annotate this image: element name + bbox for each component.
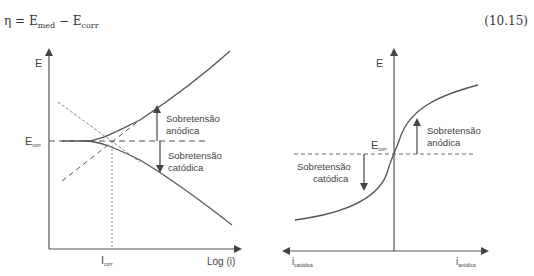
anodic-polarization-curve (62, 51, 230, 141)
right-cathodic-label-1: Sobretensão (297, 161, 351, 172)
left-cathodic-label-2: catódica (168, 162, 204, 173)
right-e-axis-label: E (376, 57, 383, 69)
polarization-diagrams: E Ecorr Icorr Log (i) Sobretensão anódic… (0, 0, 534, 276)
left-cathodic-label-1: Sobretensão (168, 150, 222, 161)
right-cathodic-label-2: catódica (313, 173, 349, 184)
i-anodic-label: ianódica (456, 256, 476, 268)
left-anodic-label-2: anódica (166, 125, 200, 136)
log-i-axis-label: Log (i) (207, 256, 235, 267)
polarization-s-curve (295, 85, 478, 220)
cathodic-tafel-extrapolation (58, 102, 140, 162)
icorr-label: Icorr (101, 254, 113, 267)
left-e-axis-label: E (35, 57, 42, 69)
anodic-tafel-extrapolation (62, 120, 140, 181)
right-ecorr-label: Ecorr (371, 139, 387, 152)
i-cathodic-label: icatódica (292, 256, 313, 268)
right-anodic-label-2: anódica (427, 137, 461, 148)
right-anodic-label-1: Sobretensão (427, 125, 481, 136)
tafel-diagram: E Ecorr Icorr Log (i) Sobretensão anódic… (25, 50, 240, 267)
left-anodic-label-1: Sobretensão (166, 113, 220, 124)
left-ecorr-label: Ecorr (25, 135, 41, 148)
linear-polarization-diagram: E Ecorr Sobretensão anódica Sobretensão … (284, 50, 487, 268)
